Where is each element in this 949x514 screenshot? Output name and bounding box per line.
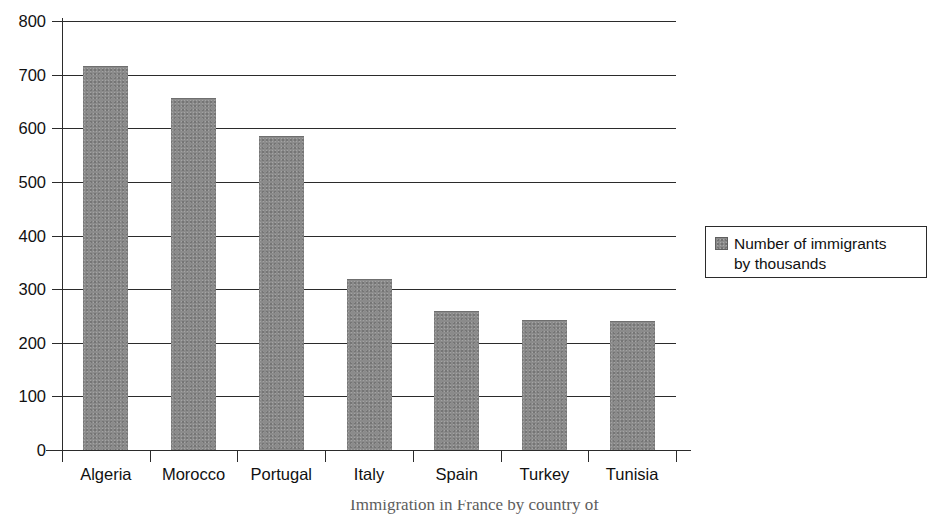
x-axis-label-morocco: Morocco (162, 465, 225, 484)
x-axis-label-tunisia: Tunisia (606, 465, 659, 484)
x-axis-label-portugal: Portugal (251, 465, 312, 484)
gridline (62, 128, 676, 129)
figure-caption: Immigration in France by country of (0, 500, 949, 514)
x-axis-tick (676, 451, 677, 462)
y-axis-tick-label: 700 (0, 67, 46, 84)
x-axis-label-italy: Italy (354, 465, 384, 484)
bar-tunisia (610, 321, 655, 450)
x-axis-label-spain: Spain (436, 465, 478, 484)
x-axis-tick (237, 451, 238, 462)
bar-italy (347, 279, 392, 450)
y-axis-tick-label: 100 (0, 388, 46, 405)
x-axis-tick (62, 451, 63, 462)
y-axis-tick-label: 0 (0, 442, 46, 459)
gridline (62, 236, 676, 237)
x-axis-tick (150, 451, 151, 462)
chart-legend: Number of immigrants by thousands (705, 226, 927, 278)
gridline (62, 21, 676, 22)
bar-spain (434, 311, 479, 450)
x-axis-tick (413, 451, 414, 462)
bar-portugal (259, 136, 304, 450)
bar-morocco (171, 98, 216, 450)
y-axis-tick-label: 600 (0, 120, 46, 137)
x-axis-tick (588, 451, 589, 462)
legend-label: Number of immigrants by thousands (734, 234, 886, 275)
plot-area (62, 21, 676, 450)
x-axis-tick (501, 451, 502, 462)
legend-label-line2: by thousands (734, 255, 826, 272)
y-axis-tick-label: 300 (0, 281, 46, 298)
bar-chart-figure: 8007006005004003002001000 AlgeriaMorocco… (0, 0, 949, 514)
gridline (62, 75, 676, 76)
x-axis-tick (325, 451, 326, 462)
gridline (62, 450, 676, 451)
bar-algeria (83, 66, 128, 450)
gridline (62, 182, 676, 183)
x-axis-label-algeria: Algeria (80, 465, 131, 484)
x-axis-label-turkey: Turkey (520, 465, 570, 484)
y-axis-tick-label: 400 (0, 228, 46, 245)
y-axis-tick-label: 500 (0, 174, 46, 191)
legend-label-line1: Number of immigrants (734, 235, 886, 252)
legend-entry: Number of immigrants by thousands (715, 234, 918, 275)
y-axis-tick-label: 200 (0, 335, 46, 352)
y-axis-tick-label: 800 (0, 13, 46, 30)
legend-color-swatch (715, 237, 728, 250)
bar-turkey (522, 320, 567, 450)
figure-caption-clip: Immigration in France by country of (0, 500, 949, 514)
